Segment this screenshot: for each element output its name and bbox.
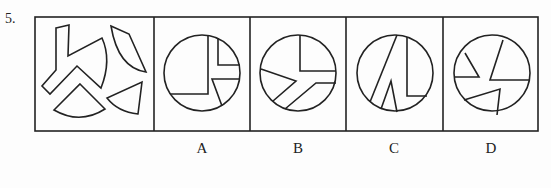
puzzle-figure (0, 0, 551, 188)
piece-segment (111, 26, 146, 72)
puzzle-frame (35, 17, 538, 131)
option-a-label[interactable]: A (192, 140, 212, 157)
option-c-label[interactable]: C (384, 140, 404, 157)
option-d-figure[interactable] (454, 35, 530, 115)
piece-sector (54, 84, 105, 117)
option-b-label[interactable]: B (288, 140, 308, 157)
question-pieces (42, 25, 146, 117)
option-b-figure[interactable] (260, 35, 336, 111)
option-a-figure[interactable] (164, 35, 240, 111)
piece-y-shape (42, 25, 107, 94)
option-c-figure[interactable] (357, 35, 433, 112)
option-d-label[interactable]: D (481, 140, 501, 157)
piece-small-sector (107, 82, 142, 114)
